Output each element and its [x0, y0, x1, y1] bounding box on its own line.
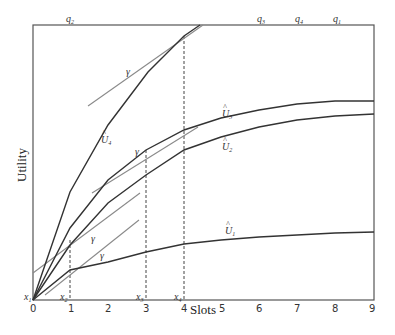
svg-text:U3: U3 [222, 108, 232, 120]
curve-u1 [33, 232, 374, 300]
q1-label: q1 [333, 13, 341, 25]
tick-0: 0 [30, 303, 36, 314]
q3-label: q3 [257, 13, 265, 25]
tick-3: 3 [143, 303, 149, 314]
curve-u2 [33, 114, 374, 300]
gamma-label-u4: γ [126, 66, 131, 77]
x2-label: x2 [59, 291, 67, 303]
gamma-label-u2: γ [91, 233, 96, 244]
svg-text:U1: U1 [225, 225, 235, 237]
top-q-labels: q2 q3 q4 q1 [66, 13, 341, 25]
q4-label: q4 [295, 13, 303, 25]
tick-2: 2 [105, 303, 111, 314]
x1-label: x1 [23, 291, 31, 303]
utility-chart: 0 1 2 3 4 5 6 7 8 9 Slots Utility q2 q3 … [0, 0, 395, 335]
tick-8: 8 [332, 303, 338, 314]
tick-1: 1 [68, 303, 74, 314]
gamma-label-u1: γ [100, 250, 105, 261]
u1-label: ^ U1 [225, 220, 235, 237]
u4-label: ^ U4 [101, 129, 111, 146]
gamma-tangent-u4 [88, 25, 203, 106]
gamma-tangent-u2 [33, 193, 140, 273]
curve-u3 [33, 101, 374, 300]
bottom-x-labels: x1 x2 x3 x4 [23, 291, 181, 303]
svg-text:U2: U2 [222, 141, 232, 153]
tick-9: 9 [369, 303, 375, 314]
tick-7: 7 [294, 303, 300, 314]
y-axis-label: Utility [14, 148, 29, 182]
x4-label: x4 [173, 291, 181, 303]
plot-frame [33, 25, 374, 300]
tick-5: 5 [219, 303, 225, 314]
svg-text:U4: U4 [101, 134, 111, 146]
tick-6: 6 [256, 303, 262, 314]
u2-label: ^ U2 [222, 136, 232, 153]
curve-u4 [33, 25, 200, 300]
tick-4: 4 [181, 303, 187, 314]
gamma-labels: γ γ γ γ [91, 66, 140, 261]
u3-label: ^ U3 [222, 103, 232, 120]
x-axis-label: Slots [190, 302, 216, 317]
x3-label: x3 [135, 291, 143, 303]
q2-label: q2 [66, 13, 74, 25]
